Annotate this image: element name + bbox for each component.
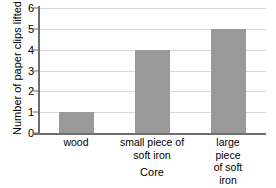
y-axis-tick-label: 6 <box>18 3 34 14</box>
bar <box>135 50 170 133</box>
y-axis-tick-label: 2 <box>18 86 34 97</box>
y-axis-tick-labels: 0123456 <box>18 0 34 188</box>
x-axis-tick-label: large piece of soft iron <box>209 136 247 186</box>
y-axis-tick-label: 4 <box>18 44 34 55</box>
y-axis-tick-label: 5 <box>18 23 34 34</box>
x-axis-title: Core <box>38 166 266 178</box>
x-axis-tick-label: wood <box>63 136 88 149</box>
x-axis-tick-label: small piece of soft iron <box>120 136 184 161</box>
y-axis-tick-label: 0 <box>18 128 34 139</box>
x-axis-line <box>33 133 266 135</box>
y-axis-tick-label: 1 <box>18 107 34 118</box>
bar <box>59 112 94 133</box>
bars-layer <box>38 8 266 133</box>
bar-chart: Number of paper clips lifted 0123456 woo… <box>0 0 276 188</box>
y-axis-tick-label: 3 <box>18 65 34 76</box>
bar <box>211 29 246 133</box>
x-axis-tick-labels: woodsmall piece of soft ironlarge piece … <box>38 136 266 166</box>
